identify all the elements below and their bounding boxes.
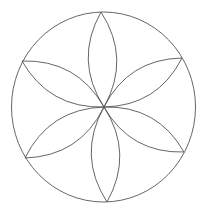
petal-5	[25, 107, 104, 158]
petal-2	[104, 58, 182, 107]
rosette-diagram	[0, 0, 208, 214]
petals-group	[22, 12, 184, 202]
petal-3	[104, 107, 184, 152]
petal-6	[22, 61, 104, 107]
